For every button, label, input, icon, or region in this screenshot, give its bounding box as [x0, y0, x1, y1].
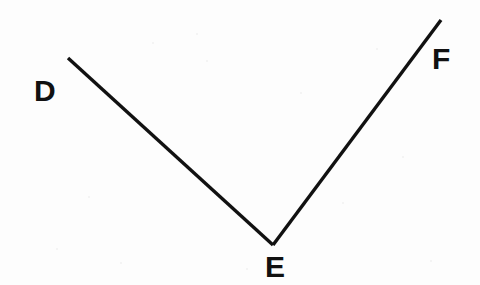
vertex-label-f: F: [432, 44, 450, 74]
angle-figure-canvas: D E F: [0, 0, 480, 285]
ray-ed-line: [68, 58, 273, 245]
angle-figure-svg: [0, 0, 480, 285]
ray-ef-line: [273, 20, 441, 245]
vertex-label-e: E: [265, 252, 285, 282]
vertex-label-d: D: [34, 76, 56, 106]
